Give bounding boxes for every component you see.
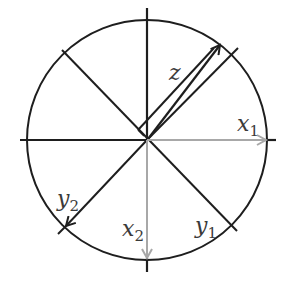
label-y2-base: y (57, 186, 69, 211)
label-y1-base: y (195, 213, 207, 238)
vector-z-arrow (148, 45, 220, 139)
label-z: z (169, 62, 181, 84)
label-y2-sub: 2 (69, 197, 79, 215)
diagram-canvas (0, 0, 289, 291)
label-y1-sub: 1 (207, 224, 217, 242)
label-x1-sub: 1 (249, 122, 259, 140)
label-x1: x1 (237, 113, 259, 139)
label-x2-sub: 2 (134, 227, 144, 245)
label-x2-base: x (122, 216, 134, 241)
label-z-base: z (169, 60, 181, 85)
diagonal-sw-tick (58, 226, 66, 234)
vector-circle-diagram: z x1 y2 x2 y1 (0, 0, 289, 291)
label-y2: y2 (57, 188, 79, 214)
diagonal-ne (147, 48, 238, 140)
label-y1: y1 (195, 215, 217, 241)
label-x1-base: x (237, 111, 249, 136)
label-x2: x2 (122, 218, 144, 244)
